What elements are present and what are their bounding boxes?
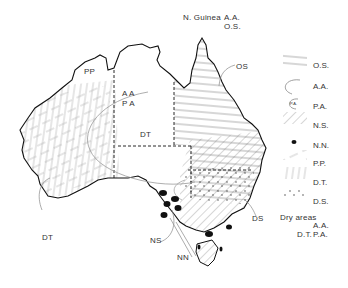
label-aa: A A: [122, 89, 135, 98]
top-note-line2: O.S.: [224, 22, 241, 31]
distribution-patterns: [20, 40, 270, 240]
label-ns: NS: [150, 236, 162, 245]
label-dt-center: DT: [140, 130, 151, 139]
legend-item-pp: P.P.: [280, 157, 348, 171]
label-pp: PP: [84, 67, 95, 76]
label-pa: P A: [122, 99, 135, 108]
legend-item-nn: N.N.: [280, 139, 348, 153]
dry-areas-pa: P.A.: [313, 230, 328, 239]
tasmania: [196, 240, 218, 266]
label-ds: DS: [252, 214, 264, 223]
legend-item-pa: P.A.: [280, 100, 348, 114]
legend-item-aa: A.A.: [280, 80, 348, 94]
label-os: OS: [236, 62, 248, 71]
dry-areas-title: Dry areas: [280, 213, 316, 222]
top-note-line1: A.A.: [224, 13, 240, 22]
label-dt-southwest: DT: [42, 233, 53, 242]
dry-areas-aa: A.A.: [313, 221, 329, 230]
legend-item-os: O.S.: [280, 59, 348, 73]
dry-areas-dt: D.T.: [297, 230, 312, 239]
legend-item-ns: N.S.: [280, 119, 348, 133]
legend-item-ds: D.S.: [280, 195, 348, 209]
label-nn: NN: [177, 253, 189, 262]
top-note-prefix: N. Guinea: [183, 13, 221, 22]
legend-item-dt: D.T.: [280, 176, 348, 190]
